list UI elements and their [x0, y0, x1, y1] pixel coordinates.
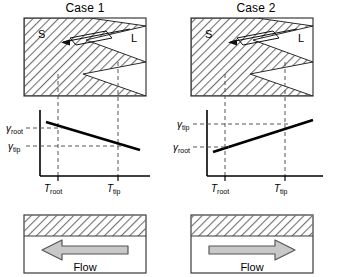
flow-box-2: Flow	[191, 215, 313, 273]
gamma-upper-label-1: γroot	[6, 123, 23, 135]
case-2-graphics: S L	[171, 0, 341, 277]
flow-label-2: Flow	[240, 261, 263, 273]
gamma-graph-1: γroot γtip Troot Ttip	[6, 110, 150, 196]
microstructure-box-2: S L	[191, 18, 313, 96]
gamma-lower-label-2: γroot	[173, 142, 190, 154]
flow-solid-band-1	[24, 215, 146, 236]
solid-label-2: S	[205, 28, 212, 40]
gamma-graph-2: γtip γroot Troot Ttip	[173, 110, 323, 196]
gamma-lower-label-1: γtip	[8, 141, 21, 154]
flow-solid-band-2	[191, 215, 313, 236]
case-1-graphics: S L	[0, 0, 170, 277]
t-tip-label-2: Ttip	[274, 183, 288, 196]
case-panel-1: Case 1 S L	[0, 0, 170, 277]
flow-label-1: Flow	[73, 261, 96, 273]
flow-box-1: Flow	[24, 215, 146, 273]
solid-label-1: S	[38, 28, 45, 40]
liquid-label-1: L	[131, 32, 137, 44]
case-panel-2: Case 2 S L	[171, 0, 341, 277]
microstructure-box-1: S L	[24, 18, 146, 96]
t-tip-label-1: Ttip	[107, 183, 121, 196]
gamma-upper-label-2: γtip	[177, 119, 190, 132]
t-root-label-2: Troot	[211, 183, 229, 195]
figure-root: Case 1 S L	[0, 0, 341, 277]
t-root-label-1: Troot	[44, 183, 62, 195]
liquid-label-2: L	[298, 32, 304, 44]
